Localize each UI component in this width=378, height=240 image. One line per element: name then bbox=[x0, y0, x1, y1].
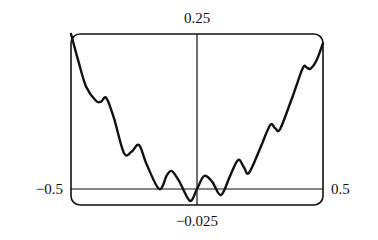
y-min-label: −0.025 bbox=[176, 213, 218, 229]
chart: 0.25 −0.025 −0.5 0.5 bbox=[0, 0, 378, 240]
y-max-label: 0.25 bbox=[184, 10, 210, 26]
x-max-label: 0.5 bbox=[331, 181, 350, 197]
x-min-label: −0.5 bbox=[36, 181, 63, 197]
